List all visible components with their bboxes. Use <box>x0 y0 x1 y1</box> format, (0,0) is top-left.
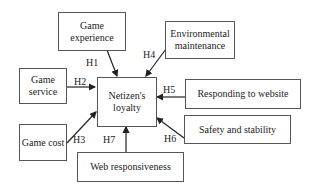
node-label: Responding to website <box>197 88 288 100</box>
node-environmental-maintenance: Environmental maintenance <box>165 21 235 59</box>
label-h2: H2 <box>74 77 86 87</box>
node-game-cost: Game cost <box>19 124 67 161</box>
label-h6: H6 <box>164 134 176 144</box>
node-netizens-loyalty: Netizen's loyalty <box>97 77 157 127</box>
label-h4: H4 <box>143 50 155 60</box>
label-h3: H3 <box>73 135 85 145</box>
arrow-h1 <box>107 50 117 76</box>
node-game-experience: Game experience <box>58 12 126 51</box>
node-label: Web responsiveness <box>90 161 171 173</box>
label-h5: H5 <box>163 85 175 95</box>
node-web-responsiveness: Web responsiveness <box>77 152 184 182</box>
center-label: Netizen's loyalty <box>98 90 156 114</box>
node-game-service: Game service <box>19 68 67 104</box>
node-label: Game service <box>20 74 66 98</box>
node-label: Game cost <box>22 137 65 149</box>
label-h1: H1 <box>86 58 98 68</box>
node-label: Safety and stability <box>199 124 276 136</box>
node-label: Game experience <box>59 20 125 44</box>
node-label: Environmental maintenance <box>166 28 234 52</box>
label-h7: H7 <box>103 135 115 145</box>
node-safety-and-stability: Safety and stability <box>184 115 291 144</box>
node-responding-to-website: Responding to website <box>185 79 301 109</box>
